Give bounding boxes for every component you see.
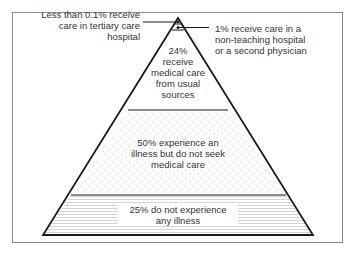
label-usual-sources: 24% receive medical care from usual sour… [138, 45, 218, 100]
label-non-teaching: 1% receive care in a non-teaching hospit… [215, 23, 345, 56]
label-no-illness: 25% do not experience any illness [118, 204, 238, 226]
label-no-care: 50% experience an illness but do not see… [108, 137, 248, 170]
label-tertiary: Less than 0.1% receive care in tertiary … [24, 9, 140, 42]
